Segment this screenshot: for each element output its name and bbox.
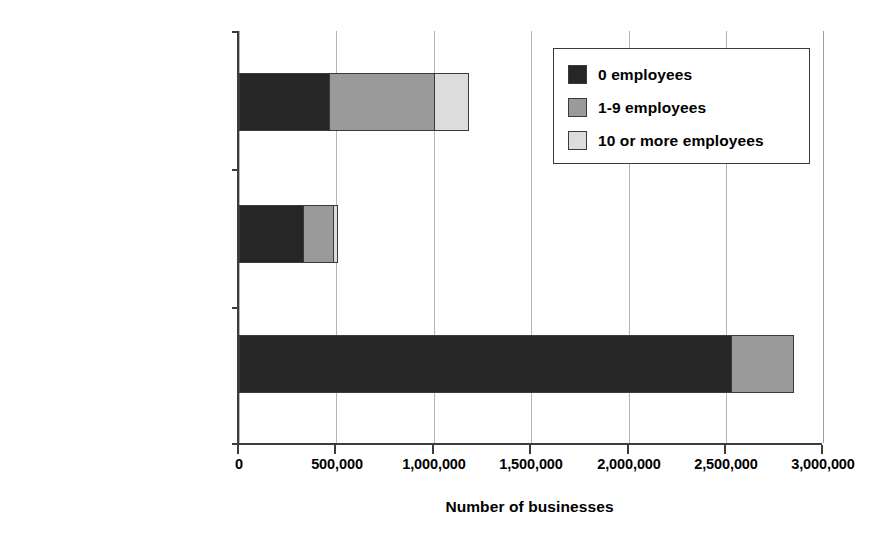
bar-segment-companies-0-employees [239,73,330,131]
bar-partnerships [239,205,338,263]
y-axis-tick-top [232,31,239,33]
legend-label-10-or-more-employees: 10 or more employees [598,132,764,150]
legend-label-0-employees: 0 employees [598,66,692,84]
bar-segment-sole-proprietorships-1-9-employees [731,335,793,393]
x-axis-ticklabel-1000000: 1,000,000 [402,456,466,472]
x-axis-ticklabel-3000000: 3,000,000 [791,456,855,472]
x-axis-ticklabel-0: 0 [235,456,243,472]
bar-segment-partnerships-0-employees [239,205,304,263]
legend-item-0-employees: 0 employees [568,58,809,91]
bar-sole-proprietorships [239,335,794,393]
bar-segment-sole-proprietorships-0-employees [239,335,732,393]
stacked-bar-chart: Companies Partnerships Sole proprietorsh… [0,0,890,545]
x-axis-ticklabel-2500000: 2,500,000 [694,456,758,472]
x-axis-tick-2000000 [627,445,629,454]
x-axis-tick-0 [237,445,239,454]
x-axis-tick-1500000 [529,445,531,454]
legend-label-1-9-employees: 1-9 employees [598,99,706,117]
bar-companies [239,73,469,131]
y-axis-labels: Companies Partnerships Sole proprietorsh… [0,0,228,545]
legend-swatch-icon-0-employees [568,65,587,84]
bar-segment-partnerships-10-or-more-employees [333,205,339,263]
x-axis-tick-2500000 [724,445,726,454]
y-axis-tick-2 [232,307,239,309]
legend: 0 employees 1-9 employees 10 or more emp… [553,48,810,164]
x-axis-ticklabel-1500000: 1,500,000 [499,456,563,472]
x-axis-ticklabel-500000: 500,000 [311,456,363,472]
legend-swatch-icon-10-or-more-employees [568,131,587,150]
x-axis-tick-1000000 [432,445,434,454]
x-axis-tick-500000 [334,445,336,454]
x-axis-title: Number of businesses [237,498,822,516]
legend-item-10-or-more-employees: 10 or more employees [568,124,809,157]
y-axis-tick-1 [232,169,239,171]
legend-swatch-icon-1-9-employees [568,98,587,117]
gridline-3000000 [823,31,824,443]
bar-segment-partnerships-1-9-employees [303,205,333,263]
x-axis-tick-3000000 [821,445,823,454]
bar-segment-companies-10-or-more-employees [434,73,469,131]
legend-item-1-9-employees: 1-9 employees [568,91,809,124]
x-axis-ticklabel-2000000: 2,000,000 [597,456,661,472]
bar-segment-companies-1-9-employees [329,73,435,131]
